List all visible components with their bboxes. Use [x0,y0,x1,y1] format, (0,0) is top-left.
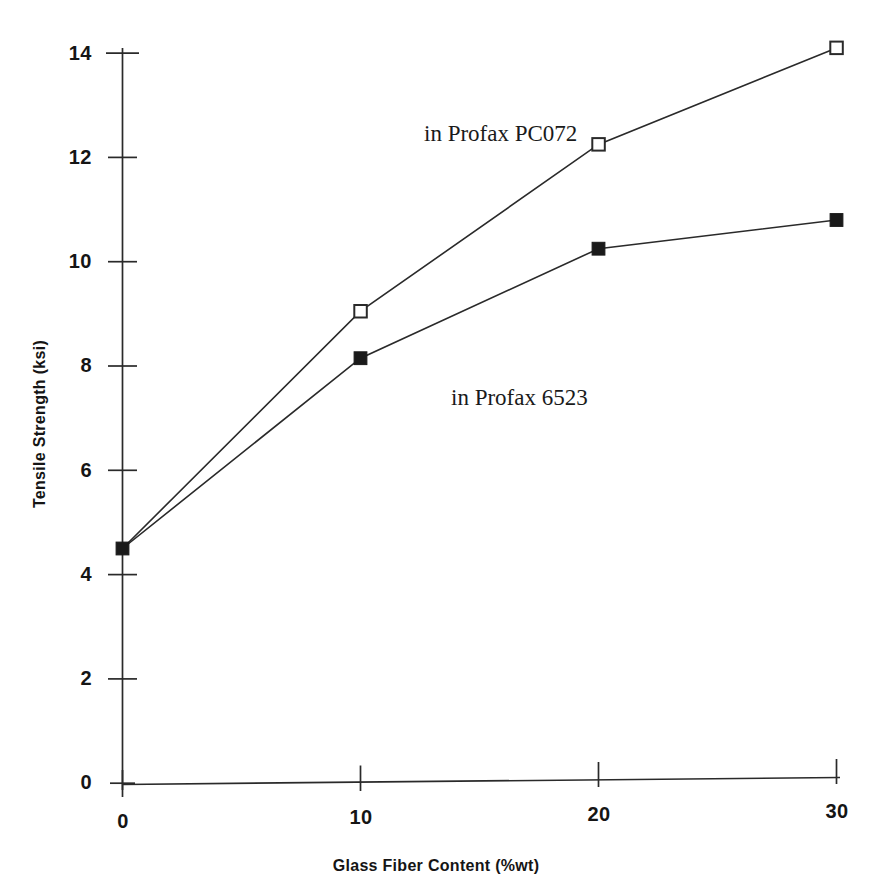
y-tick-label-2: 2 [52,667,92,690]
x-tick-label-20: 20 [569,803,629,826]
y-axis-title: Tensile Strength (ksi) [31,274,49,574]
x-axis-line [123,778,841,785]
y-tick-label-6: 6 [52,459,92,482]
y-tick-label-14: 14 [52,42,92,65]
series-annotation-6523: in Profax 6523 [451,385,588,411]
chart-figure: 14 12 10 8 6 4 2 0 0 10 20 30 Glass Fibe… [0,0,872,895]
x-axis-title: Glass Fiber Content (%wt) [0,857,872,875]
y-tick-label-12: 12 [52,146,92,169]
x-tick-label-10: 10 [331,806,391,829]
markers-pc072 [354,42,843,318]
y-tick-label-8: 8 [52,354,92,377]
series-annotation-pc072: in Profax PC072 [424,121,577,147]
y-tick-label-0: 0 [52,771,92,794]
x-tick-label-0: 0 [93,810,153,833]
y-tick-label-10: 10 [52,250,92,273]
x-tick-label-30: 30 [807,800,867,823]
y-tick-label-4: 4 [52,563,92,586]
